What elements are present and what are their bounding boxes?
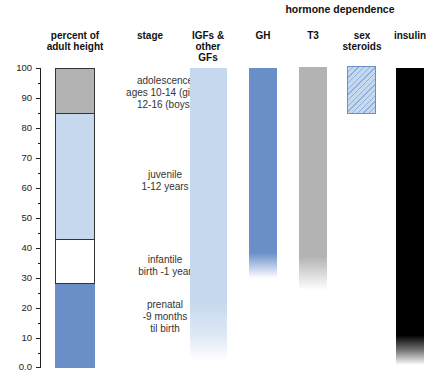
minor-tick — [38, 233, 41, 234]
tick-label: 40 — [2, 242, 32, 253]
tick — [36, 218, 41, 219]
bar-sex-steroids — [347, 66, 376, 114]
tick-label: 0.0 — [2, 361, 32, 372]
tick-label: 30 — [2, 272, 32, 283]
segment-adolescence — [55, 68, 95, 114]
tick — [36, 98, 41, 99]
tick-label: 60 — [2, 182, 32, 193]
bar-insulin — [396, 68, 424, 365]
tick — [36, 248, 41, 249]
header-line: GFs — [183, 52, 233, 63]
header-gh: GH — [243, 30, 283, 41]
tick — [36, 68, 41, 69]
segment-infantile — [55, 239, 95, 284]
minor-tick — [38, 143, 41, 144]
minor-tick — [38, 353, 41, 354]
header-t3: T3 — [293, 30, 333, 41]
tick-label: 70 — [2, 152, 32, 163]
header-insulin: insulin — [385, 30, 435, 41]
minor-tick — [38, 203, 41, 204]
header-line: other — [183, 41, 233, 52]
minor-tick — [38, 263, 41, 264]
tick — [36, 278, 41, 279]
bar-t3 — [299, 67, 327, 290]
header-line: IGFs & — [183, 30, 233, 41]
tick — [36, 158, 41, 159]
bar-gh — [249, 68, 277, 278]
tick — [36, 128, 41, 129]
tick — [36, 188, 41, 189]
minor-tick — [38, 113, 41, 114]
tick — [36, 367, 41, 368]
header-igfs: IGFs & other GFs — [183, 30, 233, 63]
tick-label: 20 — [2, 302, 32, 313]
header-line: steroids — [336, 41, 388, 52]
header-line: percent of — [35, 30, 115, 41]
minor-tick — [38, 293, 41, 294]
header-line: adult height — [35, 41, 115, 52]
segment-prenatal — [55, 283, 95, 368]
minor-tick — [38, 83, 41, 84]
segment-juvenile — [55, 113, 95, 240]
tick-label: 10 — [2, 332, 32, 343]
header-stage: stage — [125, 30, 175, 41]
bar-igfs — [190, 68, 227, 360]
header-sex-steroids: sex steroids — [336, 30, 388, 52]
tick-label: 80 — [2, 122, 32, 133]
tick — [36, 338, 41, 339]
minor-tick — [38, 323, 41, 324]
chart-title: hormone dependence — [260, 4, 420, 15]
minor-tick — [38, 173, 41, 174]
tick-label: 90 — [2, 92, 32, 103]
header-percent-adult-height: percent of adult height — [35, 30, 115, 52]
tick — [36, 308, 41, 309]
tick-label: 50 — [2, 212, 32, 223]
tick-label: 100 — [2, 62, 32, 73]
header-line: sex — [336, 30, 388, 41]
